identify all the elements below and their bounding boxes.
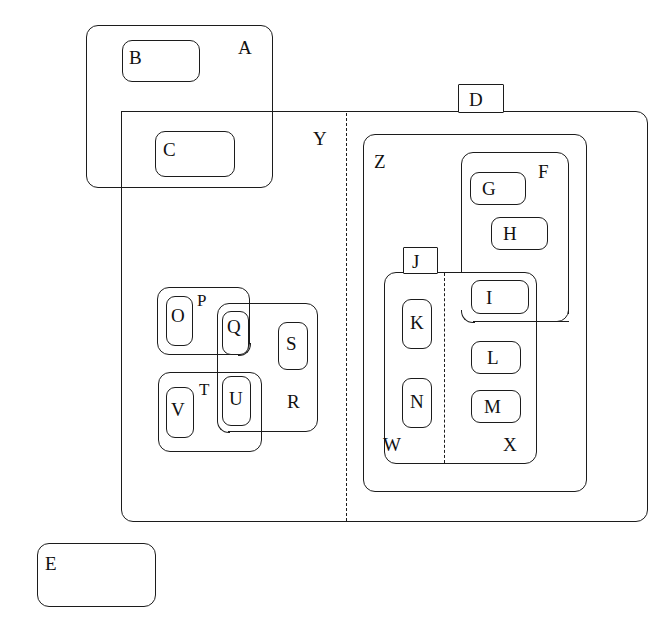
region-G[interactable]: [470, 172, 526, 205]
region-label-K: K: [410, 313, 424, 332]
region-label-S: S: [286, 334, 297, 353]
overlap-edge-R-left: [217, 372, 218, 421]
region-label-V: V: [171, 400, 185, 419]
overlap-edge-Y-left: [121, 111, 122, 189]
region-label-Z: Z: [374, 152, 386, 171]
region-label-G: G: [482, 179, 496, 198]
region-label-H: H: [503, 224, 517, 243]
region-label-E: E: [45, 554, 57, 573]
region-label-D: D: [469, 90, 483, 109]
region-J[interactable]: [403, 247, 438, 274]
region-label-A: A: [238, 38, 252, 57]
diagram-canvas: Y D A B C Z F G H J W X I K N L M P: [0, 0, 665, 644]
region-label-P: P: [197, 292, 207, 309]
region-I[interactable]: [471, 280, 529, 314]
region-label-I: I: [486, 288, 493, 307]
region-label-O: O: [171, 306, 185, 325]
region-label-R: R: [287, 392, 300, 411]
region-label-W: W: [383, 435, 401, 454]
overlap-edge-R-bottom: [228, 431, 263, 432]
region-label-F: F: [538, 162, 549, 181]
region-label-Q: Q: [227, 317, 241, 336]
divider-wx-split: [444, 273, 445, 463]
region-label-J: J: [412, 252, 420, 271]
region-label-T: T: [199, 381, 210, 398]
region-label-N: N: [410, 392, 424, 411]
overlap-edge-F-right: [568, 272, 569, 314]
region-label-X: X: [503, 435, 517, 454]
region-label-U: U: [229, 389, 243, 408]
overlap-edge-F-bottom: [473, 321, 569, 322]
region-label-Y: Y: [313, 129, 327, 148]
overlap-edge-Y-top: [121, 111, 273, 112]
region-H[interactable]: [491, 217, 548, 250]
region-label-C: C: [163, 140, 176, 159]
overlap-edge-P-right: [249, 303, 250, 344]
region-label-M: M: [484, 397, 501, 416]
region-label-B: B: [129, 48, 142, 67]
region-label-L: L: [487, 348, 499, 367]
figure-caption: [0, 622, 665, 644]
divider-y-split: [346, 113, 347, 521]
